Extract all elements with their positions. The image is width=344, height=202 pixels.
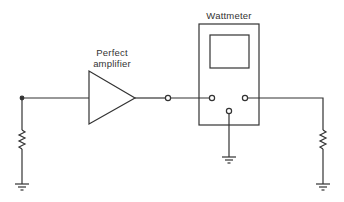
wattmeter-display: [210, 35, 249, 68]
ground-icon: [316, 184, 330, 190]
ground-icon: [222, 157, 236, 163]
wattmeter-label: Wattmeter: [199, 10, 259, 21]
amplifier-label-line2: amplifier: [84, 58, 140, 69]
output-terminal: [165, 95, 170, 100]
load-resistor: [320, 130, 326, 184]
circuit-diagram: [0, 0, 344, 202]
amplifier-label: Perfect amplifier: [84, 47, 140, 69]
left-resistor: [19, 98, 25, 184]
ground-icon: [15, 184, 29, 190]
wattmeter-ground-terminal: [226, 108, 231, 113]
amplifier-label-line1: Perfect: [84, 47, 140, 58]
wattmeter-input-terminal: [209, 95, 214, 100]
wattmeter-output-terminal: [242, 95, 247, 100]
amplifier-triangle: [89, 71, 135, 124]
